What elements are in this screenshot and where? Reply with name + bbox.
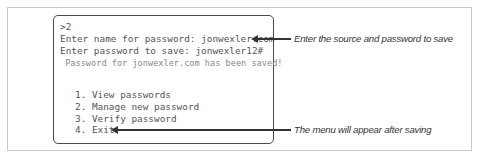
terminal-password-line: Enter password to save: jonwexler12# [60,45,263,57]
menu-item-manage: 2. Manage new password [75,101,199,113]
arrow-left-icon [117,129,291,131]
terminal-prompt-line: >2 [60,21,71,33]
menu-item-exit: 4. Exit [75,124,115,136]
terminal-name-line: Enter name for password: jonwexler.com [60,33,274,45]
menu-item-view: 1. View passwords [75,89,171,101]
annotation-source-password: Enter the source and password to save [294,33,453,45]
annotation-menu: The menu will appear after saving [294,124,431,136]
terminal-saved-message: Password for jonwexler.com has been save… [60,57,282,69]
arrow-left-icon [257,38,291,40]
